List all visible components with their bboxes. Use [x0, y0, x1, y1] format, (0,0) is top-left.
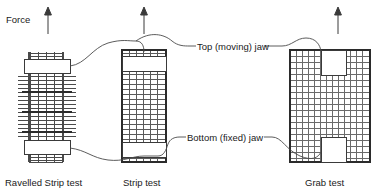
bottom-jaw-label: Bottom (fixed) jaw [187, 132, 263, 143]
figure-background [0, 0, 378, 194]
top-jaw-label: Top (moving) jaw [197, 41, 269, 52]
top-jaw-strip [122, 56, 166, 71]
top-jaw-grab [321, 50, 346, 75]
diagram-svg: Force Top (moving) jaw Bottom (fixed) ja… [0, 0, 378, 194]
caption-strip: Strip test [123, 177, 161, 188]
bottom-jaw-strip [122, 142, 166, 157]
caption-ravelled-strip: Ravelled Strip test [5, 177, 82, 188]
caption-grab: Grab test [305, 177, 344, 188]
bottom-jaw-ravelled-strip [24, 140, 70, 154]
bottom-jaw-grab [321, 137, 346, 162]
top-jaw-ravelled-strip [24, 59, 70, 73]
force-label: Force [6, 14, 30, 25]
figure-canvas: Force Top (moving) jaw Bottom (fixed) ja… [0, 0, 378, 194]
